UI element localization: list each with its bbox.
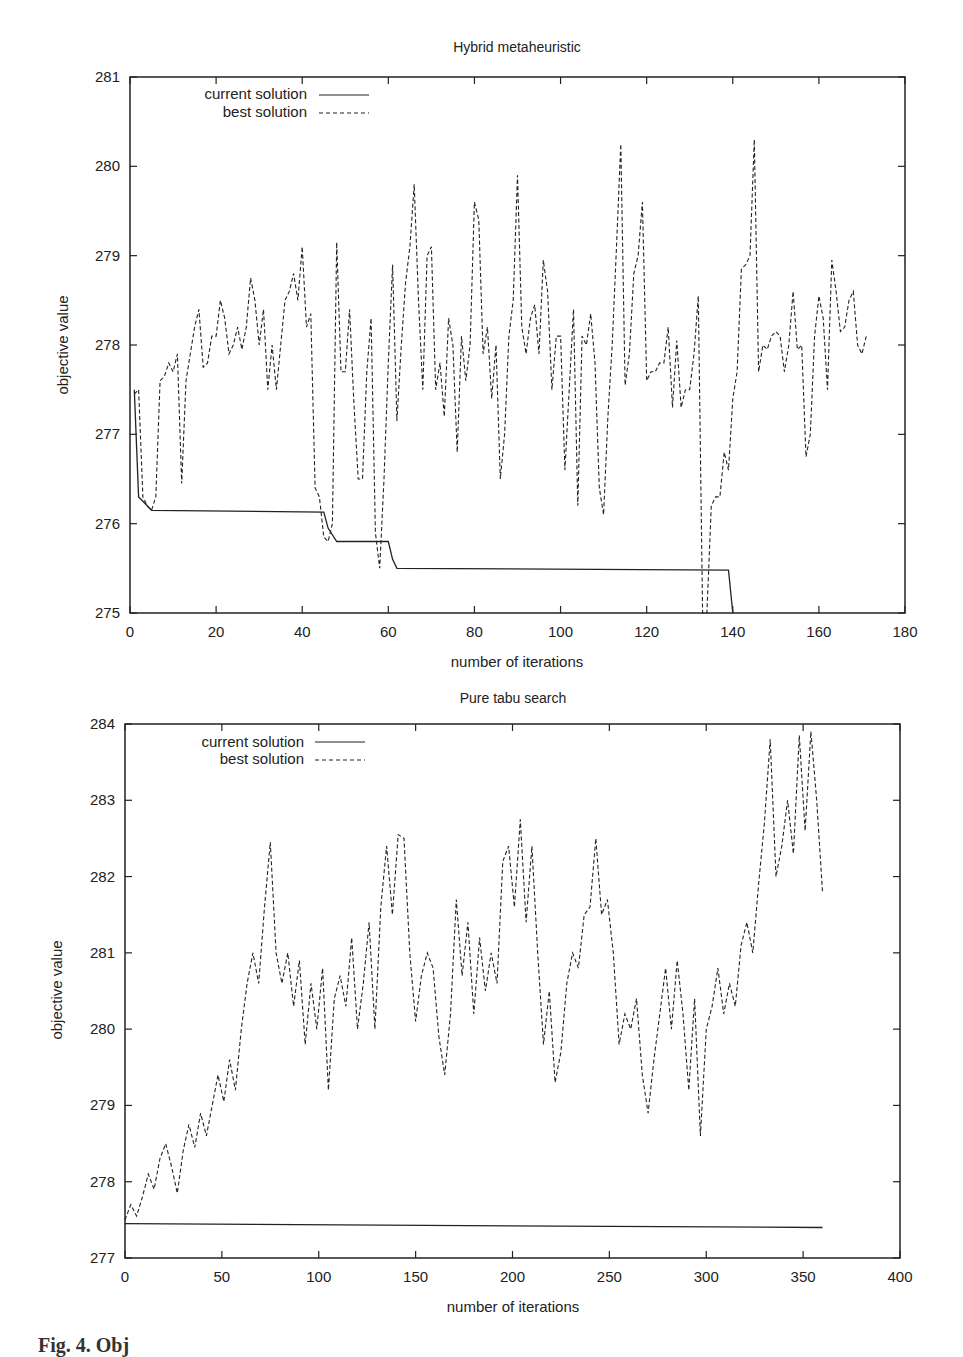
legend-label-best: best solution (220, 750, 304, 767)
series-group (125, 732, 823, 1228)
legend: current solution best solution (201, 733, 365, 767)
x-tick-label: 100 (306, 1268, 331, 1285)
x-tick-label: 50 (214, 1268, 231, 1285)
series-best-solution (134, 140, 866, 614)
y-tick-label: 282 (90, 868, 115, 885)
chart-title: Hybrid metaheuristic (453, 39, 581, 55)
x-tick-label: 350 (791, 1268, 816, 1285)
y-tick-label: 275 (95, 604, 120, 621)
tick-labels: 0204060801001201401601802752762772782792… (95, 68, 918, 640)
x-axis-title: number of iterations (451, 653, 584, 670)
x-tick-label: 60 (380, 623, 397, 640)
tick-labels: 0501001502002503003504002772782792802812… (90, 715, 913, 1285)
x-tick-label: 150 (403, 1268, 428, 1285)
y-tick-label: 281 (95, 68, 120, 85)
x-tick-label: 300 (694, 1268, 719, 1285)
legend-label-best: best solution (223, 103, 307, 120)
series-group (134, 140, 866, 614)
y-tick-label: 280 (90, 1020, 115, 1037)
y-tick-label: 278 (90, 1173, 115, 1190)
x-tick-label: 40 (294, 623, 311, 640)
y-tick-label: 281 (90, 944, 115, 961)
y-tick-label: 278 (95, 336, 120, 353)
x-tick-label: 180 (892, 623, 917, 640)
series-current-solution (125, 1224, 823, 1228)
x-tick-label: 200 (500, 1268, 525, 1285)
legend-label-current: current solution (201, 733, 304, 750)
y-tick-label: 283 (90, 791, 115, 808)
y-tick-label: 279 (95, 247, 120, 264)
series-current-solution (134, 390, 733, 613)
x-tick-label: 250 (597, 1268, 622, 1285)
x-axis-title: number of iterations (447, 1298, 580, 1315)
y-tick-label: 276 (95, 515, 120, 532)
series-best-solution (125, 732, 823, 1220)
x-tick-label: 120 (634, 623, 659, 640)
hybrid-metaheuristic-chart: Hybrid metaheuristic 0204060801001201401… (54, 39, 918, 670)
y-axis-title: objective value (54, 295, 71, 394)
y-axis-title: objective value (48, 940, 65, 1039)
x-tick-label: 0 (126, 623, 134, 640)
ticks (125, 724, 900, 1258)
y-tick-label: 277 (90, 1249, 115, 1266)
x-tick-label: 100 (548, 623, 573, 640)
legend: current solution best solution (204, 85, 369, 120)
y-tick-label: 277 (95, 425, 120, 442)
x-tick-label: 400 (887, 1268, 912, 1285)
x-tick-label: 140 (720, 623, 745, 640)
x-tick-label: 80 (466, 623, 483, 640)
y-tick-label: 284 (90, 715, 115, 732)
x-tick-label: 160 (806, 623, 831, 640)
figure-caption: Fig. 4. Obj (38, 1334, 129, 1357)
chart-title: Pure tabu search (460, 690, 567, 706)
pure-tabu-search-chart: Pure tabu search 05010015020025030035040… (48, 690, 913, 1315)
plot-frame (125, 724, 900, 1258)
x-tick-label: 0 (121, 1268, 129, 1285)
y-tick-label: 279 (90, 1096, 115, 1113)
y-tick-label: 280 (95, 157, 120, 174)
x-tick-label: 20 (208, 623, 225, 640)
legend-label-current: current solution (204, 85, 307, 102)
